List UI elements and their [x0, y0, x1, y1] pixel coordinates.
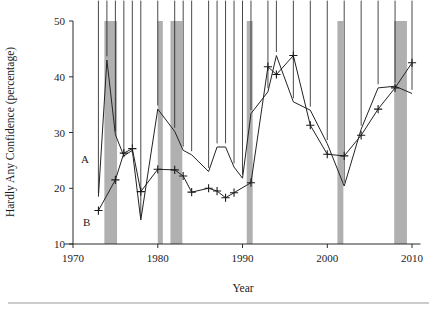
x-axis-title: Year	[232, 282, 253, 294]
recession-band-5	[394, 21, 407, 244]
recession-band-3	[247, 21, 253, 244]
chart-figure: 102030405019701980199020002010 AB Hardly…	[0, 0, 437, 310]
x-tick-label-1980: 1980	[147, 252, 170, 264]
recession-band-1	[158, 21, 163, 244]
y-tick-label-10: 10	[54, 238, 66, 250]
y-tick-label-20: 20	[54, 182, 66, 194]
series-annotation-B: B	[83, 216, 90, 228]
x-tick-label-2010: 2010	[401, 252, 424, 264]
x-tick-label-2000: 2000	[316, 252, 339, 264]
y-axis-title: Hardly Any Confidence (percentage)	[4, 47, 17, 217]
y-tick-label-50: 50	[54, 15, 66, 27]
series-annotation-A: A	[81, 153, 89, 165]
y-tick-label-40: 40	[54, 71, 66, 83]
recession-band-2	[170, 21, 182, 244]
confidence-line-chart: 102030405019701980199020002010 AB Hardly…	[0, 0, 437, 310]
x-tick-label-1990: 1990	[232, 252, 255, 264]
recession-band-4	[337, 21, 343, 244]
x-tick-label-1970: 1970	[62, 252, 85, 264]
y-tick-label-30: 30	[54, 127, 66, 139]
